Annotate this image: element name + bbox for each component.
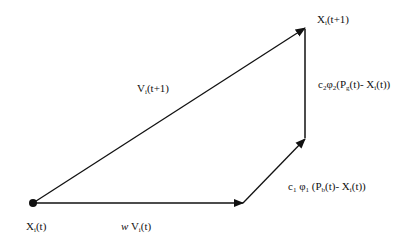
label-part: φ	[296, 180, 305, 192]
label-part: (t)	[141, 220, 151, 232]
label-part: (t)	[36, 220, 46, 232]
new-velocity-label: Vi(t+1)	[137, 82, 169, 98]
inertia-component-label: w Vi(t)	[121, 220, 151, 236]
social-component-label: c2φ2(Pg(t)- Xi(t))	[318, 78, 390, 94]
label-part: (t)- X	[325, 180, 350, 192]
label-part: X	[26, 220, 34, 232]
origin-position-label: Xi(t)	[26, 220, 46, 236]
origin-point	[29, 199, 37, 207]
label-part: (t+1)	[147, 82, 169, 94]
label-part: (P	[309, 180, 322, 192]
new-velocity-vector-arrow	[33, 28, 305, 203]
label-part: (t)- X	[350, 78, 375, 90]
vector-diagram	[0, 0, 418, 242]
label-part: (P	[336, 78, 346, 90]
label-part: (t))	[376, 78, 390, 90]
label-part: X	[317, 13, 325, 25]
cognitive-component-label: c1 φ1 (Pb(t)- Xi(t))	[288, 180, 366, 196]
label-part: (t+1)	[327, 13, 349, 25]
label-part: (t))	[352, 180, 366, 192]
label-part: V	[128, 220, 139, 232]
label-part: V	[137, 82, 145, 94]
target-position-label: Xi(t+1)	[317, 13, 349, 29]
